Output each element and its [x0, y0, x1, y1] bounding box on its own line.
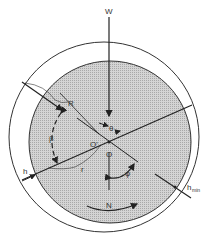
- bearing-diagram: W R β θ O' O r h φ h min N: [0, 0, 208, 243]
- radius-R-label: R: [68, 99, 74, 108]
- hmin-label: h: [187, 183, 191, 192]
- load-label: W: [105, 7, 113, 16]
- bearing-center-label: O: [106, 150, 112, 159]
- center-point: [108, 141, 111, 144]
- theta-label: θ: [109, 124, 114, 133]
- hmin-mark: [174, 186, 177, 189]
- radius-r-label: r: [81, 165, 84, 174]
- phi-label: φ: [125, 169, 130, 178]
- h-label: h: [23, 167, 27, 176]
- rotation-label: N: [106, 201, 112, 210]
- hmin-subscript: min: [192, 187, 200, 193]
- journal-center-label: O': [90, 140, 98, 149]
- beta-label: β: [49, 134, 54, 143]
